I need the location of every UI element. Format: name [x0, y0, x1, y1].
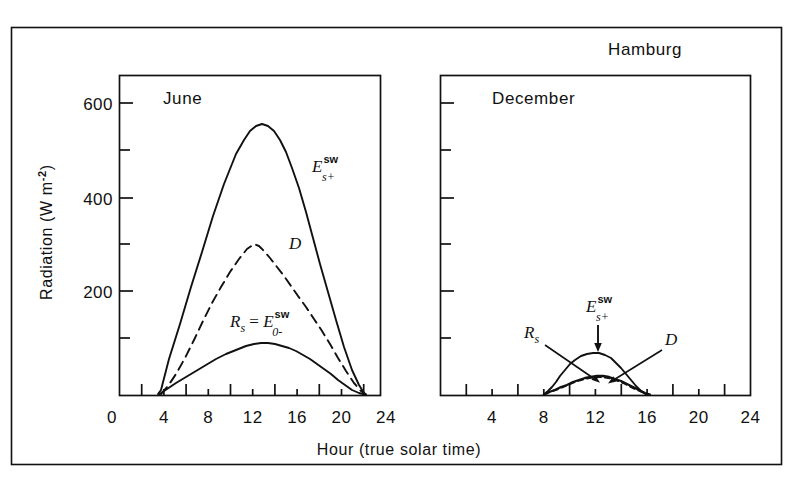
- june-curve-rs: [159, 343, 365, 395]
- june-rs-sub2: 0-: [272, 325, 282, 339]
- june-label-d: D: [288, 234, 302, 253]
- december-y-ticks: [441, 103, 455, 338]
- june-rs-eq: =: [245, 312, 263, 331]
- june-x-ticks: [142, 384, 364, 396]
- y-axis-title: Radiation (W m-2): [36, 164, 55, 300]
- june-rs-base: R: [229, 312, 241, 331]
- december-label-d: D: [664, 330, 678, 349]
- december-es-arrow: [594, 325, 602, 352]
- december-panel-title: December: [492, 89, 575, 108]
- radiation-figure: Hamburg Radiation (W m-2) June 600: [0, 0, 799, 494]
- december-plot-frame: [441, 76, 751, 396]
- site-title: Hamburg: [608, 40, 682, 59]
- panel-june: June 600 400 200: [83, 76, 396, 428]
- svg-text:Radiation (W m-2): Radiation (W m-2): [36, 164, 55, 300]
- june-xtick-8: 8: [203, 408, 213, 427]
- december-rs-base: R: [523, 323, 535, 342]
- december-label-rs: Rs: [523, 323, 539, 346]
- december-xtick-20: 20: [689, 408, 709, 427]
- december-label-es-sw: Esws+: [585, 293, 613, 324]
- june-xtick-4: 4: [159, 408, 169, 427]
- june-xtick-20: 20: [332, 408, 352, 427]
- june-label-es-sw: Esws+: [311, 153, 339, 184]
- december-xtick-16: 16: [637, 408, 657, 427]
- december-es-sub: s+: [596, 310, 609, 324]
- december-rs-sub: s: [534, 332, 539, 346]
- june-rs-sup2: sw: [275, 308, 290, 320]
- june-label-rs: Rs = Esw0-: [229, 308, 290, 339]
- december-xtick-12: 12: [585, 408, 605, 427]
- svg-text:Esws+: Esws+: [311, 153, 339, 184]
- december-es-sup: sw: [597, 293, 612, 305]
- x-axis-title: Hour (true solar time): [317, 441, 481, 458]
- y-axis-title-text: Radiation (W m: [38, 181, 55, 300]
- panel-december: December: [441, 76, 761, 428]
- december-xtick-24: 24: [740, 408, 760, 427]
- june-es-sup: sw: [323, 153, 338, 165]
- june-ytick-400: 400: [83, 190, 113, 209]
- june-panel-title: June: [163, 89, 202, 108]
- svg-text:Esws+: Esws+: [585, 293, 613, 324]
- june-xtick-12: 12: [243, 408, 263, 427]
- y-axis-title-close: ): [38, 164, 55, 170]
- december-rs-leader: [545, 345, 600, 383]
- june-es-sub: s+: [322, 170, 335, 184]
- svg-text:Rs: Rs: [523, 323, 539, 346]
- december-xtick-4: 4: [487, 408, 497, 427]
- y-axis-title-exponent: -2: [36, 170, 48, 181]
- figure-root: Hamburg Radiation (W m-2) June 600: [0, 0, 799, 494]
- june-xtick-0: 0: [107, 408, 117, 427]
- june-y-ticks: [120, 103, 134, 338]
- june-xtick-24: 24: [376, 408, 396, 427]
- svg-text:Rs = Esw0-: Rs = Esw0-: [229, 308, 290, 339]
- june-ytick-600: 600: [83, 95, 113, 114]
- december-x-ticks: [466, 384, 724, 396]
- june-xtick-16: 16: [287, 408, 307, 427]
- outer-border: [12, 28, 782, 465]
- june-ytick-200: 200: [83, 283, 113, 302]
- december-xtick-8: 8: [539, 408, 549, 427]
- december-d-leader: [608, 350, 662, 384]
- june-plot-frame: [120, 76, 381, 396]
